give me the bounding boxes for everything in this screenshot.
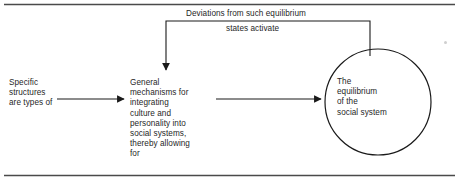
feedback-label-line-2: states activate xyxy=(226,24,279,34)
feedback-label-line-1: Deviations from such equilibrium xyxy=(186,9,306,19)
node-label-general-mechanisms: General mechanisms for integrating cultu… xyxy=(130,78,190,160)
node-label-specific-structures: Specific structures are types of xyxy=(9,78,52,109)
figure-container: Specific structures are types of General… xyxy=(0,0,461,185)
node-label-equilibrium: The equilibrium of the social system xyxy=(337,77,387,118)
scan-artifact-speck xyxy=(444,41,447,44)
